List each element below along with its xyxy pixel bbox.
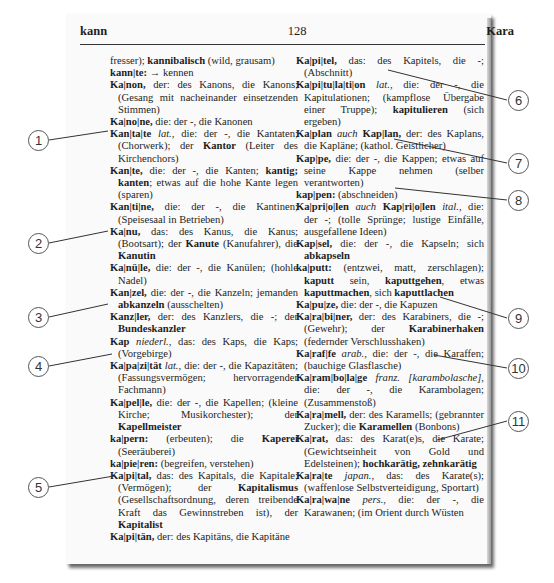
dictionary-entry: Ka|pi|tän, der: des Kapitäns, die Kapitä…	[110, 531, 298, 543]
headword: Bundeskanzler	[118, 323, 186, 334]
headword: Kaperei	[262, 433, 298, 444]
entry-text: (begreifen, verstehen)	[158, 458, 254, 469]
dictionary-entry: Ka|pu|ze, die: der -, die Kapuzen	[296, 299, 484, 311]
callout-number: 8	[508, 190, 529, 211]
headword: Ka|no|ne,	[110, 116, 153, 127]
entry-text: der: des Kanzlers, die -; der	[151, 311, 299, 322]
headword: Ka|plan	[296, 128, 332, 139]
dictionary-entry: Ka|pa|zi|tät lat., die: der -, die Kapaz…	[110, 360, 298, 397]
entry-text: die: der -, die Kanzeln; jemanden	[147, 287, 298, 298]
etymology-label: ital.	[442, 201, 459, 212]
headword: kaputtmachen	[304, 287, 369, 298]
dictionary-entry: Kap niederl., das: des Kaps, die Kaps; (…	[110, 336, 298, 360]
page-header: kann 128 Kara	[80, 24, 514, 42]
entry-text: (Bonbons)	[412, 421, 459, 432]
right-column: Ka|pi|tel, das: des Kapitels, die -; (Ab…	[296, 55, 484, 519]
headword: Ka|pel|le,	[110, 397, 152, 408]
etymology-label: arab.	[342, 348, 365, 359]
dictionary-entry: Ka|ra|bi|ner, der: des Karabiners, die -…	[296, 311, 484, 348]
headword: Ka|pi|tel,	[296, 55, 337, 66]
dictionary-entry: ka|pern: (erbeuten); die Kaperei (Seeräu…	[110, 433, 298, 457]
headword: Ka|ra|bi|ner,	[296, 311, 352, 322]
headword: ka|pie|ren:	[110, 458, 158, 469]
headword: Ka|nü|le,	[110, 262, 150, 273]
etymology-label: auch	[337, 128, 358, 139]
dictionary-entry: Kan|te, die: der -, die Kanten; kantig; …	[110, 165, 298, 202]
headword: abkanzeln	[118, 299, 165, 310]
etymology-label: auch	[355, 201, 376, 212]
dictionary-entry: Kan|ti|ne, die: der -, die Kantinen; (Sp…	[110, 201, 298, 225]
etymology-label: japan.	[345, 470, 372, 481]
dictionary-entry: kap|pen: (abschneiden)	[296, 189, 484, 201]
etymology-label: pers.	[362, 494, 383, 505]
dictionary-entry: Ka|plan auch Kap|lan, der: des Kaplans, …	[296, 128, 484, 152]
headword: Kanutin	[118, 250, 156, 261]
dictionary-entry: Ka|nu, das: des Kanus, die Kanus; (Boots…	[110, 226, 298, 263]
headword: Kan|zel,	[110, 287, 147, 298]
dictionary-entry: Ka|pi|tal, das: des Kapitals, die Kapita…	[110, 470, 298, 531]
page-edge	[487, 18, 491, 564]
entry-text: sein,	[334, 275, 385, 286]
dictionary-entry: Kan|zel, die: der -, die Kanzeln; jemand…	[110, 287, 298, 311]
right-guide-word: Kara	[486, 24, 514, 39]
headword: Ka|non,	[110, 79, 146, 90]
dictionary-entry: Kap|pe, die: der -, die Kappen; etwas au…	[296, 153, 484, 190]
entry-text: die: der -, die Kanten;	[143, 165, 266, 176]
page-number: 128	[80, 24, 514, 39]
headword: Karabinerhaken	[409, 323, 484, 334]
header-rule	[80, 44, 485, 45]
headword: hochkarätig, zehnkarätig	[363, 458, 477, 469]
headword: Kan|ti|ne,	[110, 201, 154, 212]
entry-text: , sich	[369, 287, 394, 298]
dictionary-entry: Ka|ra|wa|ne pers., die: der -, die Karaw…	[296, 494, 484, 518]
callout-number: 7	[508, 153, 529, 174]
headword: Ka|ra|wa|ne	[296, 494, 350, 505]
entry-text: (Seeräuberei)	[118, 446, 175, 457]
headword: kaputtlachen	[394, 287, 453, 298]
headword: Ka|nu,	[110, 226, 140, 237]
headword: Ka|ra|te	[296, 470, 332, 481]
entry-text	[151, 128, 158, 139]
headword: Ka|ram|bo|la|ge	[296, 372, 367, 383]
headword: kann|te:	[110, 67, 147, 78]
headword: Kapellmeister	[118, 421, 182, 432]
entry-text	[332, 470, 344, 481]
entry-text: , etwas	[442, 275, 484, 286]
headword: Ka|pa|zi|tät	[110, 360, 162, 371]
dictionary-entry: Ka|pri|o|len auch Kap|ri|o|len ital., di…	[296, 201, 484, 238]
entry-text	[365, 79, 376, 90]
headword: Ka|rat,	[296, 433, 328, 444]
callout-number: 9	[508, 308, 529, 329]
dictionary-entry: Ka|raf|fe arab., die: der -, die Karaffe…	[296, 348, 484, 372]
headword: Kan|te,	[110, 165, 143, 176]
headword: kannibalisch	[147, 55, 205, 66]
callout-number: 3	[28, 307, 49, 328]
headword: Kap	[110, 336, 129, 347]
headword: Ka|pri|o|len	[296, 201, 349, 212]
headword: abkapseln	[304, 250, 350, 261]
entry-text: (Gesellschaftsordnung, deren treibende K…	[118, 494, 298, 517]
entry-text: (federnder Verschlusshaken)	[304, 336, 425, 347]
headword: kaputtgehen	[385, 275, 442, 286]
headword: Ka|pi|tu|la|ti|on	[296, 79, 365, 90]
entry-text: (wild, grausam)	[205, 55, 275, 66]
dictionary-entry: Kan|ta|te lat., die: der -, die Kantaten…	[110, 128, 298, 165]
callout-number: 5	[28, 477, 49, 498]
dictionary-entry: Ka|pi|tel, das: des Kapitels, die -; (Ab…	[296, 55, 484, 79]
entry-text: fresser);	[110, 55, 147, 66]
callout-number: 4	[28, 356, 49, 377]
headword: Kap|sel,	[296, 238, 332, 249]
headword: Kap|pe,	[296, 153, 331, 164]
headword: Ka|ra|mell,	[296, 409, 346, 420]
dictionary-entry: Kanz|ler, der: des Kanzlers, die -; der …	[110, 311, 298, 335]
entry-text	[367, 372, 375, 383]
entry-text	[350, 494, 362, 505]
etymology-label: franz. [karambolasche]	[376, 372, 482, 383]
etymology-label: lat.	[165, 360, 179, 371]
dictionary-entry: Ka|rat, das: des Karat(e)s, die Karate; …	[296, 433, 484, 470]
dictionary-entry: Kap|sel, die: der -, die Kapseln; sich a…	[296, 238, 484, 262]
headword: ka|putt:	[296, 262, 332, 273]
callout-number: 11	[508, 411, 529, 432]
dictionary-entry: Ka|ram|bo|la|ge franz. [karambolasche], …	[296, 372, 484, 409]
headword: Ka|pi|tal,	[110, 470, 151, 481]
